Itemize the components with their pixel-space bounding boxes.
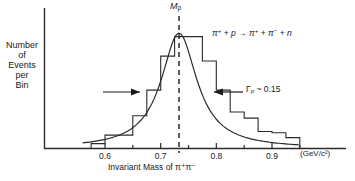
y-axis-label: Number of Events per Bin [2,40,42,90]
reaction-plus-3: + [280,28,285,38]
y-axis-label-line-5: Bin [2,80,42,90]
x-tick-label: 0.6 [93,151,117,161]
y-axis-label-line-4: per [2,70,42,80]
resonance-mass-subscript: ρ [178,4,182,11]
x-tick-label: 0.9 [260,151,284,161]
resonance-width-value: ~ 0.15 [257,84,281,94]
x-axis-units: (GeV/c²) [300,150,330,159]
resonance-width-subscript: ρ [251,87,254,94]
reaction-arrow: → [238,28,247,38]
reaction-proton: p [231,28,236,38]
reaction-formula: π+ + p → π+ + π− + n [212,28,292,38]
x-tick-label: 0.7 [149,151,173,161]
reaction-neutron: n [287,28,292,38]
invariant-mass-chart: Number of Events per Bin Invariant Mass … [0,0,355,181]
y-axis-label-line-2: of [2,50,42,60]
resonance-width-label: Γρ ~ 0.15 [246,85,280,95]
x-tick-label: 0.8 [204,151,228,161]
reaction-plus-2: + [261,28,266,38]
reaction-pi1-charge: + [218,27,222,34]
reaction-pi-out1-charge: + [255,27,259,34]
x-axis-units-text: (GeV/c²) [300,149,330,158]
x-axis-label-particles: π⁺π⁻ [175,162,196,172]
reaction-plus-1: + [224,28,229,38]
y-axis-label-line-1: Number [2,40,42,50]
resonance-mass-label: Mρ [170,1,181,12]
axes [44,8,346,149]
y-axis-label-line-3: Events [2,60,42,70]
width-arrow-left [103,89,140,96]
x-axis-label: Invariant Mass of π⁺π⁻ [108,163,196,173]
x-axis-ticks [105,143,300,149]
reaction-pi-out2-charge: − [274,27,278,34]
x-axis-label-text: Invariant Mass of [108,162,173,172]
resonance-mass-symbol: M [170,1,178,11]
